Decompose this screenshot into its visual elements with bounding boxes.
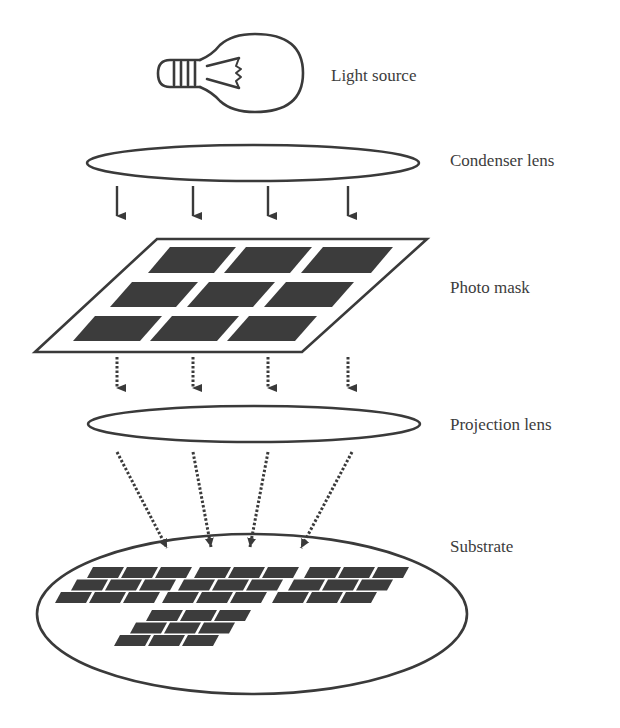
wafer-die	[198, 623, 235, 634]
wafer-die	[155, 567, 192, 578]
wafer-die	[123, 592, 160, 603]
substrate-wafer	[37, 534, 467, 694]
wafer-die	[178, 580, 215, 591]
projection-lens	[88, 406, 420, 442]
wafer-die	[322, 580, 359, 591]
wafer-die	[146, 610, 183, 621]
wafer-die	[164, 623, 201, 634]
wafer-die	[196, 592, 233, 603]
wafer-die	[306, 592, 343, 603]
label-condenser-lens: Condenser lens	[450, 152, 554, 169]
wafer-die	[212, 580, 249, 591]
wafer-die	[180, 610, 217, 621]
wafer-die	[55, 592, 92, 603]
wafer-die	[182, 635, 219, 646]
label-projection-lens: Projection lens	[450, 416, 552, 433]
wafer-die	[262, 567, 299, 578]
wafer-die	[148, 635, 185, 646]
light-rays-dotted	[117, 357, 348, 388]
wafer-die	[230, 592, 267, 603]
wafer-die	[194, 567, 231, 578]
wafer-die	[89, 592, 126, 603]
wafer-die	[162, 592, 199, 603]
wafer-die	[121, 567, 158, 578]
wafer-die	[130, 623, 167, 634]
wafer-die	[71, 580, 108, 591]
label-light-source: Light source	[331, 67, 416, 84]
wafer-die	[246, 580, 283, 591]
wafer-die	[139, 580, 176, 591]
wafer-die	[338, 567, 375, 578]
wafer-die	[114, 635, 151, 646]
photo-mask	[35, 239, 427, 352]
wafer-die	[340, 592, 377, 603]
wafer-die	[304, 567, 341, 578]
wafer-die	[372, 567, 409, 578]
light-rays-solid	[117, 186, 348, 216]
wafer-die	[228, 567, 265, 578]
wafer-die	[272, 592, 309, 603]
condenser-lens	[87, 145, 419, 181]
label-substrate: Substrate	[450, 538, 513, 555]
light-bulb-icon	[158, 34, 303, 112]
wafer-die	[105, 580, 142, 591]
wafer-die	[87, 567, 124, 578]
wafer-die	[288, 580, 325, 591]
wafer-die	[214, 610, 251, 621]
photolithography-diagram	[0, 0, 620, 728]
label-photo-mask: Photo mask	[450, 279, 530, 296]
wafer-die	[356, 580, 393, 591]
